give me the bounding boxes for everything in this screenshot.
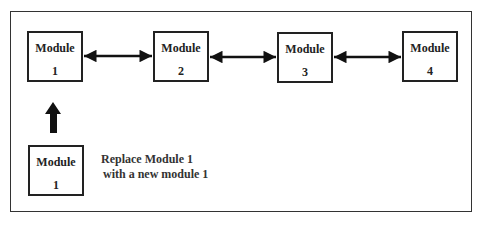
caption-line-1: Replace Module 1 xyxy=(101,152,208,167)
module-label: Module xyxy=(29,41,81,56)
module-number: 1 xyxy=(29,64,81,79)
module-3-box: Module 3 xyxy=(277,32,333,83)
module-label: Module xyxy=(404,41,456,56)
module-number: 1 xyxy=(30,178,82,193)
module-number: 4 xyxy=(404,64,456,79)
module-2-box: Module 2 xyxy=(153,31,209,82)
module-number: 3 xyxy=(279,65,331,80)
module-label: Module xyxy=(30,155,82,170)
module-4-box: Module 4 xyxy=(402,31,458,82)
caption-line-2: with a new module 1 xyxy=(101,167,208,182)
module-1-box: Module 1 xyxy=(27,31,83,82)
replacement-caption: Replace Module 1 with a new module 1 xyxy=(101,152,208,182)
module-label: Module xyxy=(279,42,331,57)
replacement-module-box: Module 1 xyxy=(28,145,84,196)
module-number: 2 xyxy=(155,64,207,79)
module-label: Module xyxy=(155,41,207,56)
up-arrow-icon xyxy=(45,102,61,133)
